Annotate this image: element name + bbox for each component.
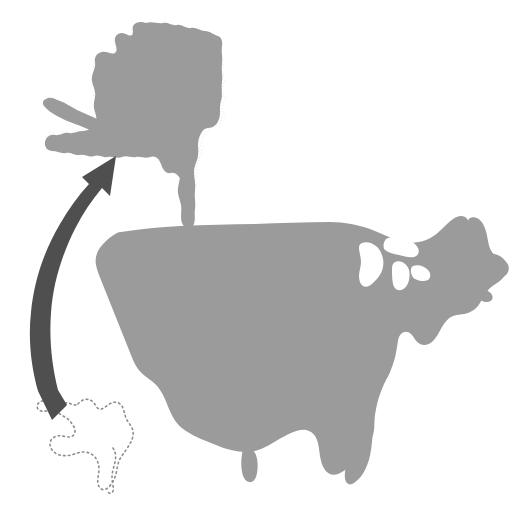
contiguous-us-group bbox=[90, 215, 520, 500]
map-svg-canvas bbox=[0, 0, 523, 516]
alaska-texture bbox=[40, 18, 240, 238]
map-figure bbox=[0, 0, 523, 516]
alaska-enlarged-group bbox=[40, 18, 240, 238]
contiguous-us-texture bbox=[90, 215, 520, 500]
